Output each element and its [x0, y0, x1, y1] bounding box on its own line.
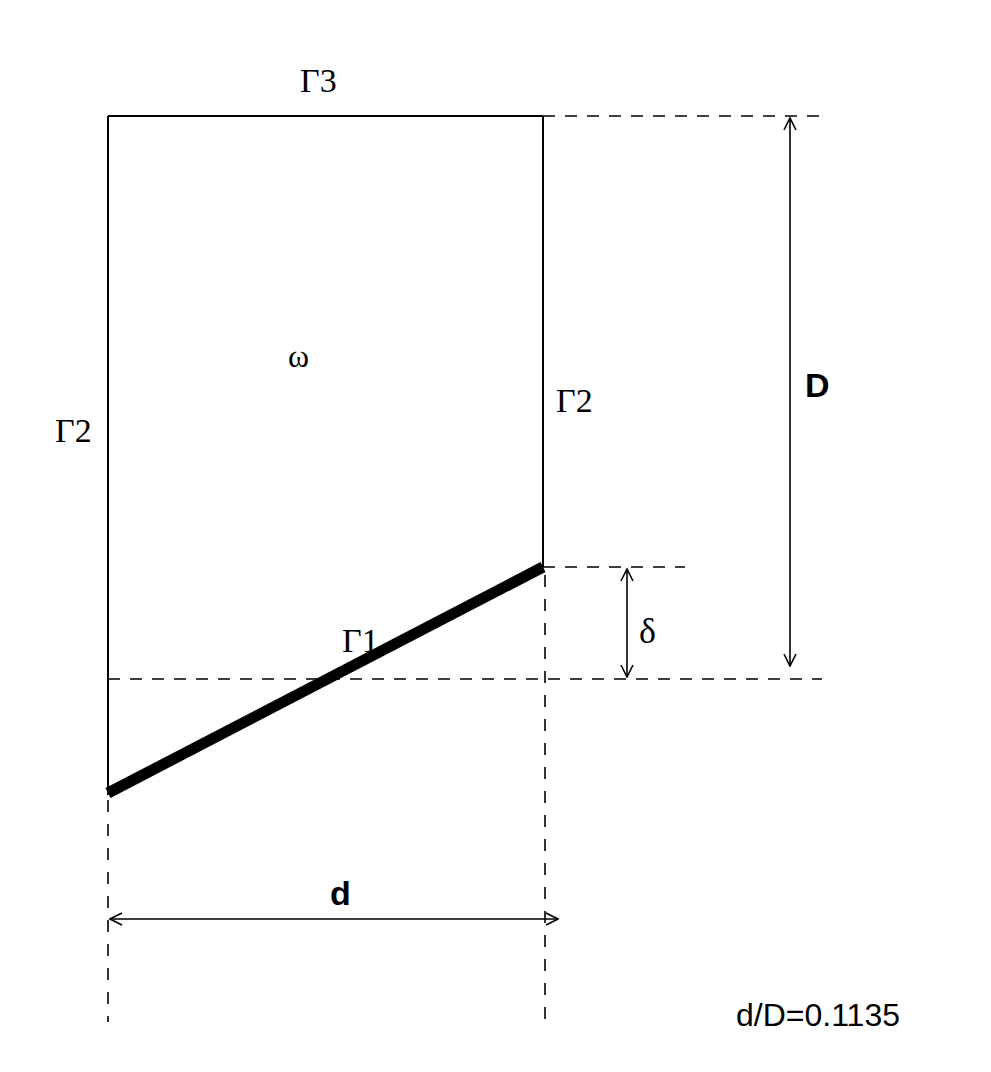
boundary-gamma1-sloped: [108, 567, 543, 793]
label-ratio: d/D=0.1135: [736, 997, 900, 1033]
label-delta: δ: [639, 611, 656, 651]
label-omega: ω: [288, 338, 309, 374]
label-D: D: [805, 366, 830, 404]
label-gamma2-right: Γ2: [556, 382, 593, 419]
label-gamma3: Γ3: [300, 62, 337, 99]
domain-diagram: Γ3 Γ2 Γ2 Γ1 ω D δ d d/D=0.1135: [0, 0, 991, 1072]
label-gamma1: Γ1: [342, 622, 379, 659]
label-gamma2-left: Γ2: [55, 412, 92, 449]
label-d: d: [330, 874, 351, 912]
